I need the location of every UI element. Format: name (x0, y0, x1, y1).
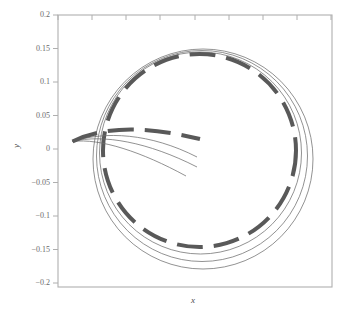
ytick-label-2: 0.1 (22, 77, 50, 86)
tail-thin-3 (73, 141, 187, 176)
data-curves (73, 49, 314, 269)
ytick-label-8: −0.2 (18, 278, 50, 287)
axes-ticks-top (58, 15, 331, 20)
ytick-label-1: 0.15 (18, 44, 50, 53)
tail-thin-2 (73, 139, 198, 167)
x-axis-label: x (191, 295, 195, 305)
ytick-label-7: −0.15 (14, 245, 50, 254)
orbit-thin-3 (93, 49, 313, 269)
orbit-dashed (103, 54, 296, 247)
plot-area (0, 0, 346, 316)
figure-canvas: 0.2 0.15 0.1 0.05 0 −0.05 −0.1 −0.15 −0.… (0, 0, 346, 316)
tail-dashed (73, 130, 201, 142)
ytick-label-5: −0.05 (14, 178, 50, 187)
y-axis-label: y (11, 144, 21, 148)
ytick-label-3: 0.05 (18, 111, 50, 120)
ytick-label-6: −0.1 (18, 211, 50, 220)
ytick-label-4: 0 (28, 144, 50, 153)
axes-ticks-left (53, 15, 58, 283)
ytick-label-0: 0.2 (22, 10, 50, 19)
